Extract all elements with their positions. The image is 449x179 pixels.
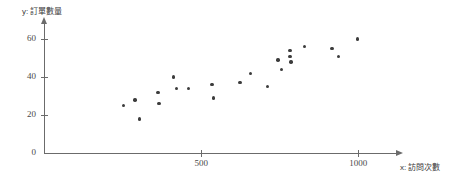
scatter-plot: y: 訂單數量 x: 訪問次數 0204060 5001000 <box>0 0 449 179</box>
data-point <box>356 37 359 40</box>
data-point <box>157 102 160 105</box>
x-tick-label: 500 <box>181 159 221 168</box>
data-point <box>238 81 241 84</box>
y-axis-arrow-icon <box>41 17 47 24</box>
y-axis-line <box>44 24 45 154</box>
x-axis-line <box>44 153 396 154</box>
data-point <box>175 87 178 90</box>
data-point <box>172 75 175 78</box>
x-axis-title: x: 訪問次數 <box>400 164 440 172</box>
data-point <box>187 87 190 90</box>
data-point <box>266 85 269 88</box>
x-tick-label: 1000 <box>338 159 378 168</box>
data-point <box>289 60 292 63</box>
data-point <box>156 91 159 94</box>
x-tick-mark <box>201 150 202 157</box>
y-tick-mark <box>41 39 48 40</box>
data-point <box>337 55 340 58</box>
y-tick-label: 60 <box>0 34 36 43</box>
y-axis-title: y: 訂單數量 <box>22 8 62 16</box>
y-tick-label: 0 <box>0 148 36 157</box>
data-point <box>138 117 141 120</box>
data-point <box>212 96 215 99</box>
y-tick-mark <box>41 115 48 116</box>
data-point <box>210 83 213 86</box>
y-tick-label: 20 <box>0 110 36 119</box>
data-point <box>303 45 306 48</box>
data-point <box>330 47 333 50</box>
data-point <box>288 49 291 52</box>
data-point <box>280 68 283 71</box>
x-axis-arrow-icon <box>396 150 403 156</box>
data-point <box>249 72 252 75</box>
data-point <box>122 104 125 107</box>
data-point <box>288 55 291 58</box>
y-tick-mark <box>41 77 48 78</box>
x-tick-mark <box>358 150 359 157</box>
y-tick-label: 40 <box>0 72 36 81</box>
data-point <box>276 58 279 61</box>
data-point <box>133 98 136 101</box>
